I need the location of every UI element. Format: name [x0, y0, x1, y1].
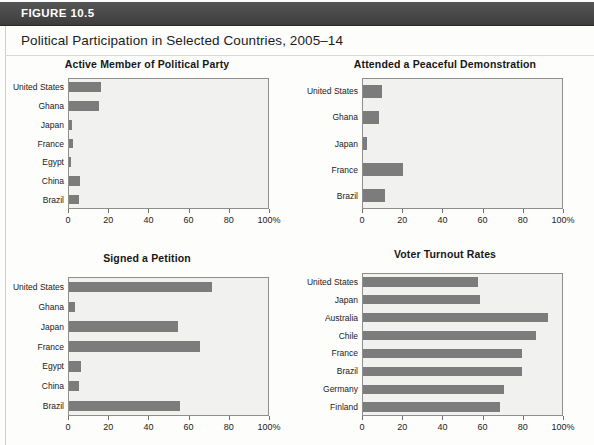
bar: [363, 402, 500, 411]
x-axis-tick-label: 80: [518, 422, 528, 432]
chart-title: Attended a Peaceful Demonstration: [296, 58, 594, 70]
y-axis-label: Japan: [0, 322, 64, 332]
bar: [69, 381, 79, 391]
bar: [69, 157, 71, 167]
x-axis-tick-label: 60: [184, 215, 194, 225]
x-axis-tick-label: 40: [437, 215, 447, 225]
x-axis-tick: [68, 416, 69, 420]
bar: [363, 189, 385, 202]
x-axis-tick-label: 60: [478, 422, 488, 432]
y-axis-label: United States: [0, 82, 64, 92]
bar: [363, 313, 548, 322]
bar: [363, 331, 536, 340]
x-axis-tick-label: 0: [359, 215, 364, 225]
y-axis-label: Australia: [294, 313, 358, 323]
x-axis-tick: [189, 416, 190, 420]
bar: [363, 277, 478, 286]
y-axis-label: Germany: [294, 384, 358, 394]
bar: [363, 111, 379, 124]
y-axis-label: Chile: [294, 331, 358, 341]
y-axis-label: Brazil: [294, 366, 358, 376]
x-axis-tick-label: 80: [224, 215, 234, 225]
y-axis-label: Brazil: [0, 401, 64, 411]
figure-banner: FIGURE 10.5: [0, 2, 594, 26]
bar: [69, 302, 75, 312]
x-axis-tick-label: 60: [184, 422, 194, 432]
figure-title: Political Participation in Selected Coun…: [21, 33, 343, 48]
y-axis-label: Ghana: [0, 302, 64, 312]
bar: [363, 85, 382, 98]
y-axis-label: Brazil: [294, 191, 358, 201]
x-axis-tick-label: 100%: [551, 422, 574, 432]
x-axis-tick-label: 100%: [551, 215, 574, 225]
x-axis-tick: [563, 416, 564, 420]
y-axis-label: France: [294, 165, 358, 175]
x-axis-tick: [483, 209, 484, 213]
x-axis-tick: [229, 209, 230, 213]
bar: [69, 401, 180, 411]
x-axis-tick: [523, 209, 524, 213]
source-caption: [196, 432, 588, 443]
y-axis-label: Egypt: [0, 157, 64, 167]
y-axis-label: China: [0, 176, 64, 186]
x-axis-tick: [269, 209, 270, 213]
bar: [69, 82, 101, 92]
x-axis-tick: [189, 209, 190, 213]
y-axis-label: Japan: [294, 295, 358, 305]
y-axis-label: United States: [0, 282, 64, 292]
plot-area: [362, 78, 563, 209]
y-axis-label: Ghana: [294, 112, 358, 122]
y-axis-label: France: [0, 342, 64, 352]
x-axis-tick: [563, 209, 564, 213]
chart-title: Voter Turnout Rates: [296, 248, 594, 260]
y-axis-label: United States: [294, 86, 358, 96]
y-axis-label: France: [0, 139, 64, 149]
y-axis-label: France: [294, 348, 358, 358]
bar: [69, 341, 200, 351]
plot-area: [68, 78, 269, 209]
y-axis-label: Japan: [0, 120, 64, 130]
y-axis-label: Brazil: [0, 195, 64, 205]
x-axis-tick: [108, 209, 109, 213]
x-axis-tick: [362, 209, 363, 213]
x-axis-tick-label: 0: [65, 422, 70, 432]
y-axis-label: China: [0, 381, 64, 391]
bar: [363, 349, 522, 358]
chart-title: Signed a Petition: [0, 252, 294, 264]
bar: [69, 361, 81, 371]
x-axis-tick: [108, 416, 109, 420]
x-axis-tick: [148, 416, 149, 420]
x-axis-tick-label: 0: [359, 422, 364, 432]
x-axis-tick: [483, 416, 484, 420]
figure-number-label: FIGURE 10.5: [21, 7, 94, 19]
y-axis-label: Egypt: [0, 361, 64, 371]
bar: [69, 120, 72, 130]
x-axis-tick: [402, 416, 403, 420]
bar: [69, 282, 212, 292]
bar: [69, 195, 79, 205]
x-axis-tick: [402, 209, 403, 213]
bar: [363, 137, 367, 150]
y-axis-label: United States: [294, 277, 358, 287]
x-axis-tick-label: 20: [103, 422, 113, 432]
x-axis-tick-label: 80: [518, 215, 528, 225]
bar: [69, 176, 80, 186]
x-axis-tick: [269, 416, 270, 420]
bar: [363, 163, 403, 176]
y-axis-label: Ghana: [0, 101, 64, 111]
x-axis-tick: [68, 209, 69, 213]
x-axis-tick: [442, 416, 443, 420]
x-axis-tick: [442, 209, 443, 213]
x-axis-tick: [523, 416, 524, 420]
x-axis-tick: [148, 209, 149, 213]
x-axis-tick-label: 100%: [257, 215, 280, 225]
x-axis-tick-label: 80: [224, 422, 234, 432]
bar: [363, 295, 480, 304]
y-axis-label: Finland: [294, 402, 358, 412]
x-axis-tick-label: 20: [397, 422, 407, 432]
chart-title: Active Member of Political Party: [0, 58, 294, 70]
x-axis-tick-label: 40: [143, 215, 153, 225]
y-axis-label: Japan: [294, 139, 358, 149]
x-axis-tick-label: 0: [65, 215, 70, 225]
x-axis-tick-label: 60: [478, 215, 488, 225]
